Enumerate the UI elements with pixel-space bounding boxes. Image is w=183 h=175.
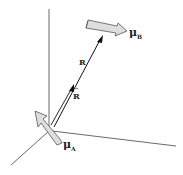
mu-b-subscript: B [137, 33, 142, 40]
mu-a-label: μ [63, 138, 71, 151]
r-vector [51, 35, 103, 127]
dipole-diagram: μ B R ^ R μ A [0, 0, 183, 175]
mu-b-label: μ [129, 26, 137, 39]
r-unit-label: R [73, 91, 80, 101]
r-vector-label: R [79, 57, 86, 67]
y-axis [11, 131, 49, 165]
r-vector-arrowhead [97, 35, 103, 43]
mu-b-arrow-icon [86, 20, 127, 36]
mu-a-subscript: A [70, 145, 76, 152]
